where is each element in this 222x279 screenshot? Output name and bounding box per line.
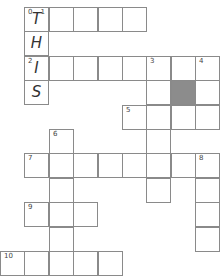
crossword-cell[interactable] [73, 202, 98, 227]
crossword-cell[interactable] [146, 105, 171, 130]
crossword-cell[interactable] [146, 129, 171, 154]
crossword-cell[interactable] [73, 251, 98, 276]
crossword-cell[interactable]: 7 [24, 153, 49, 178]
crossword-cell[interactable] [24, 251, 49, 276]
cell-letter: S [25, 85, 48, 100]
cell-letter: T [25, 12, 48, 27]
crossword-cell[interactable]: 6 [49, 129, 74, 154]
crossword-cell[interactable] [195, 227, 220, 252]
clue-number: 7 [28, 155, 32, 162]
crossword-cell[interactable] [98, 153, 123, 178]
crossword-cell[interactable] [171, 105, 196, 130]
crossword-cell[interactable] [171, 153, 196, 178]
crossword-cell[interactable]: 3 [146, 56, 171, 81]
clue-number: 8 [199, 155, 203, 162]
crossword-cell[interactable] [122, 153, 147, 178]
crossword-cell[interactable]: 01T [24, 7, 49, 32]
crossword-cell[interactable]: S [24, 80, 49, 105]
crossword-cell[interactable] [49, 251, 74, 276]
crossword-cell[interactable] [146, 178, 171, 203]
clue-number: 9 [28, 204, 32, 211]
crossword-cell[interactable] [171, 56, 196, 81]
crossword-cell[interactable] [49, 153, 74, 178]
crossword-cell[interactable] [73, 153, 98, 178]
crossword-cell[interactable] [49, 178, 74, 203]
cell-letter: I [25, 61, 48, 76]
clue-number: 6 [53, 131, 57, 138]
crossword-cell[interactable] [146, 153, 171, 178]
clue-number: 5 [126, 107, 130, 114]
crossword-cell[interactable]: H [24, 31, 49, 56]
crossword-cell[interactable]: 10 [0, 251, 25, 276]
crossword-cell[interactable] [98, 56, 123, 81]
crossword-cell[interactable] [195, 202, 220, 227]
shaded-cell [171, 80, 196, 105]
crossword-cell[interactable] [49, 56, 74, 81]
crossword-cell[interactable] [122, 7, 147, 32]
crossword-grid: 01TH2I34S5678910 [0, 0, 222, 279]
cell-letter: H [25, 36, 48, 51]
crossword-cell[interactable]: 4 [195, 56, 220, 81]
crossword-cell[interactable] [98, 7, 123, 32]
crossword-cell[interactable] [49, 202, 74, 227]
crossword-cell[interactable]: 2I [24, 56, 49, 81]
crossword-cell[interactable] [98, 251, 123, 276]
crossword-cell[interactable] [122, 56, 147, 81]
crossword-cell[interactable] [73, 7, 98, 32]
crossword-cell[interactable] [49, 227, 74, 252]
crossword-cell[interactable] [195, 80, 220, 105]
crossword-cell[interactable] [146, 80, 171, 105]
crossword-cell[interactable] [49, 7, 74, 32]
clue-number: 3 [150, 58, 154, 65]
crossword-cell[interactable] [195, 105, 220, 130]
clue-number: 10 [4, 253, 13, 260]
crossword-cell[interactable]: 9 [24, 202, 49, 227]
crossword-cell[interactable] [73, 56, 98, 81]
crossword-cell[interactable]: 8 [195, 153, 220, 178]
crossword-cell[interactable] [195, 178, 220, 203]
clue-number: 4 [199, 58, 203, 65]
crossword-cell[interactable]: 5 [122, 105, 147, 130]
